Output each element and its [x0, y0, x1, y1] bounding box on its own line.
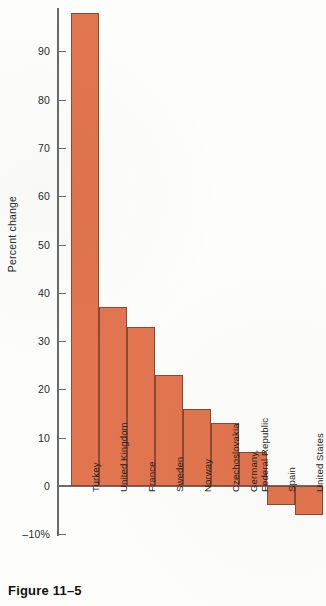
bar	[71, 13, 99, 486]
x-axis-category-label: Norway	[203, 459, 214, 492]
x-axis-category-label: Spain	[287, 467, 298, 492]
x-axis-category-label: France	[147, 462, 158, 492]
chart-plot-area: 9080706050403020100–10% Percent change T…	[0, 0, 326, 560]
figure-container: 9080706050403020100–10% Percent change T…	[0, 0, 326, 606]
figure-caption: Figure 11–5	[8, 583, 82, 598]
x-axis-category-label: Germany, Federal Republic	[249, 418, 270, 492]
x-axis-category-label: Turkey	[91, 462, 102, 492]
x-axis-category-label: Sweden	[175, 457, 186, 492]
x-axis-category-label: United Kingdom	[119, 422, 130, 492]
x-axis-category-label: United States	[315, 433, 326, 492]
bar-series	[0, 0, 326, 560]
x-axis-category-label: Czechoslovakia	[231, 423, 242, 492]
